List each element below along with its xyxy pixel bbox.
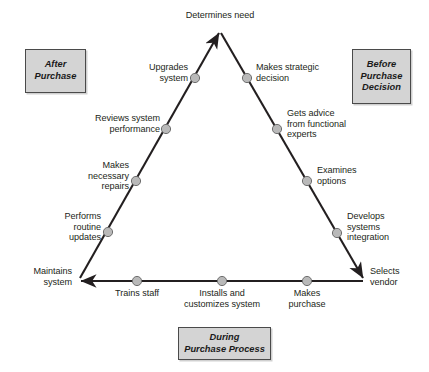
label-makes-strategic-decision: Makes strategic decision bbox=[256, 62, 354, 83]
label-trains-staff: Trains staff bbox=[101, 288, 173, 299]
label-performs-routine-updates: Performs routine updates bbox=[31, 211, 101, 243]
node-develops-systems-integration bbox=[332, 228, 341, 237]
label-examines-options: Examines options bbox=[317, 165, 387, 186]
corner-label-determines-need: Determines need bbox=[160, 10, 280, 21]
phase-box-before-purchase-decision: Before Purchase Decision bbox=[352, 49, 411, 104]
node-reviews-system-performance bbox=[161, 124, 170, 133]
node-performs-routine-updates bbox=[103, 227, 112, 236]
label-installs-customizes-system: Installs and customizes system bbox=[172, 288, 272, 309]
label-makes-purchase: Makes purchase bbox=[274, 288, 340, 309]
label-upgrades-system: Upgrades system bbox=[131, 62, 188, 83]
label-gets-advice: Gets advice from functional experts bbox=[287, 108, 379, 140]
phase-box-after-purchase: After Purchase bbox=[25, 49, 86, 93]
corner-label-selects-vendor: Selects vendor bbox=[370, 266, 428, 287]
label-develops-systems-integration: Develops systems integration bbox=[347, 211, 427, 243]
node-makes-purchase bbox=[302, 276, 311, 285]
node-examines-options bbox=[302, 176, 311, 185]
node-installs-customizes-system bbox=[217, 276, 226, 285]
label-makes-necessary-repairs: Makes necessary repairs bbox=[58, 160, 129, 192]
label-reviews-system-performance: Reviews system performance bbox=[75, 113, 160, 134]
node-trains-staff bbox=[132, 276, 141, 285]
buying-process-triangle-diagram: Determines need Selects vendor Maintains… bbox=[0, 0, 429, 372]
node-gets-advice bbox=[272, 124, 281, 133]
node-upgrades-system bbox=[190, 73, 199, 82]
corner-label-maintains-system: Maintains system bbox=[6, 266, 72, 287]
node-makes-strategic-decision bbox=[242, 73, 251, 82]
phase-box-during-purchase-process: During Purchase Process bbox=[178, 327, 271, 360]
node-makes-necessary-repairs bbox=[131, 176, 140, 185]
